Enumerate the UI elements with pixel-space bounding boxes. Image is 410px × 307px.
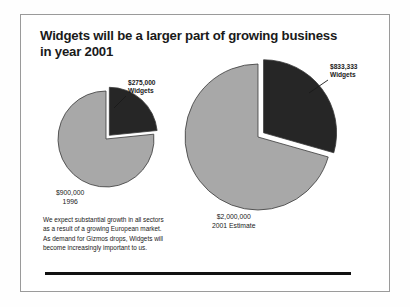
body-line-3: As demand for Gizmos drops, Widgets will <box>43 234 203 243</box>
body-paragraph: We expect substantial growth in all sect… <box>43 215 203 253</box>
pie-charts-svg <box>0 0 410 307</box>
pie-caption-2001: $2,000,000 2001 Estimate <box>212 212 255 230</box>
slide-root: Widgets will be a larger part of growing… <box>0 0 410 307</box>
pie-chart-2 <box>185 60 337 210</box>
pie-chart-1 <box>58 87 157 187</box>
pie-caption-period-1996: 1996 <box>56 197 84 206</box>
pie-caption-period-2001: 2001 Estimate <box>212 221 255 230</box>
callout-label-widgets-1996: $275,000 Widgets <box>128 79 156 95</box>
callout-value-2001: $833,333 <box>330 63 358 71</box>
body-line-1: We expect substantial growth in all sect… <box>43 215 203 224</box>
pie-caption-total-1996: $900,000 <box>56 188 84 197</box>
callout-category-1996: Widgets <box>128 87 156 95</box>
callout-category-2001: Widgets <box>330 71 358 79</box>
pie-slice-widgets[interactable] <box>264 60 337 153</box>
pie-caption-1996: $900,000 1996 <box>56 188 84 206</box>
pie-caption-total-2001: $2,000,000 <box>212 212 255 221</box>
callout-value-1996: $275,000 <box>128 79 156 87</box>
bottom-divider-rule <box>45 272 351 275</box>
body-line-2: as a result of a growing European market… <box>43 224 203 233</box>
body-line-4: become increasingly important to us. <box>43 243 203 252</box>
callout-label-widgets-2001: $833,333 Widgets <box>330 63 358 79</box>
